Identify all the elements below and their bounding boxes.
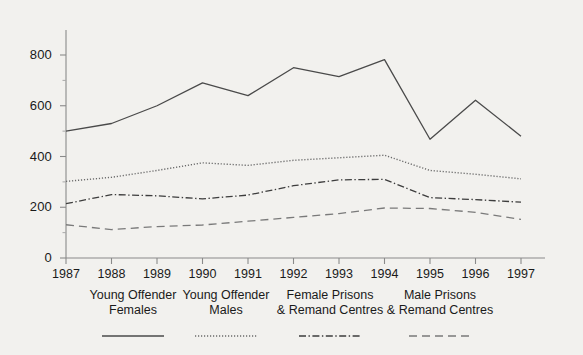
y-axis-tick-label: 400 (12, 149, 52, 164)
y-axis-tick-label: 600 (12, 98, 52, 113)
legend-entry-3: Male Prisons& Remand Centres (365, 288, 515, 318)
series-line-3 (66, 208, 521, 230)
x-axis-ticks (66, 258, 521, 264)
x-axis-tick-label: 1996 (453, 267, 499, 281)
x-axis-tick-label: 1994 (362, 267, 408, 281)
y-axis-tick-label: 200 (12, 199, 52, 214)
data-series-group (66, 60, 521, 230)
y-axis-ticks (60, 55, 66, 258)
x-axis-tick-label: 1988 (89, 267, 135, 281)
x-axis-tick-label: 1987 (43, 267, 89, 281)
line-chart: 8006004002000 19871988198919901991199219… (0, 0, 583, 355)
series-line-1 (66, 155, 521, 181)
x-axis-tick-label: 1993 (316, 267, 362, 281)
series-line-2 (66, 179, 521, 203)
y-axis-tick-label: 800 (12, 47, 52, 62)
legend-entry-label-line1: Male Prisons (365, 288, 515, 303)
legend-entry-label-line2: & Remand Centres (365, 303, 515, 318)
x-axis-tick-label: 1992 (271, 267, 317, 281)
y-axis-tick-label: 0 (12, 250, 52, 265)
series-line-0 (66, 60, 521, 140)
x-axis-tick-label: 1989 (134, 267, 180, 281)
x-axis-tick-label: 1991 (225, 267, 271, 281)
x-axis-tick-label: 1997 (498, 267, 544, 281)
x-axis-tick-label: 1995 (407, 267, 453, 281)
x-axis-tick-label: 1990 (180, 267, 226, 281)
